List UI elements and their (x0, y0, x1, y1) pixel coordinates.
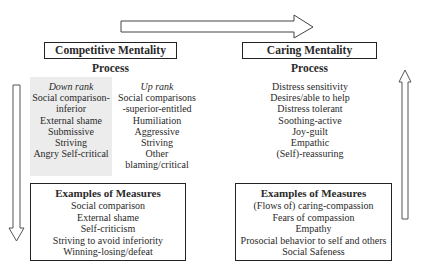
competitive-mentality-title: Competitive Mentality (44, 42, 177, 59)
down-arrow-icon (9, 85, 24, 241)
list-item: Joy-guilt (250, 126, 370, 137)
list-item: Social Safeness (236, 246, 391, 258)
list-item: Distress sensitivity (250, 81, 370, 92)
list-item: Fears of compassion (236, 212, 391, 224)
list-item: Soothing-active (250, 115, 370, 126)
list-item: Striving (112, 137, 202, 148)
list-item: External shame (31, 212, 185, 224)
up-rank-label: Up rank (112, 81, 202, 92)
competitive-process-heading: Process (44, 62, 177, 74)
competitive-measures-heading: Examples of Measures (31, 186, 185, 200)
list-item: Prosocial behavior to self and others (236, 235, 391, 247)
competitive-measures-box: Examples of Measures Social comparison E… (30, 183, 186, 261)
list-item: Social comparison- (30, 92, 112, 103)
caring-process-heading: Process (242, 62, 377, 74)
list-item: blaming/critical (112, 159, 202, 170)
list-item: Self-criticism (31, 223, 185, 235)
list-item: Aggressive (112, 126, 202, 137)
caring-mentality-title: Caring Mentality (242, 42, 377, 59)
list-item: Empathic (250, 137, 370, 148)
list-item: Submissive (30, 126, 112, 137)
caring-measures-heading: Examples of Measures (236, 186, 391, 200)
up-rank-list: Up rank Social comparisons -superior-ent… (112, 81, 202, 171)
list-item: inferior (30, 103, 112, 114)
list-item: Winning-losing/defeat (31, 246, 185, 258)
caring-process-list: Distress sensitivity Desires/able to hel… (250, 81, 370, 159)
list-item: Other (112, 148, 202, 159)
list-item: -superior-entitled (112, 103, 202, 114)
list-item: Angry Self-critical (30, 148, 112, 159)
list-item: Humiliation (112, 115, 202, 126)
list-item: Desires/able to help (250, 92, 370, 103)
down-rank-list: Down rank Social comparison- inferior Ex… (30, 81, 112, 159)
list-item: Empathy (236, 223, 391, 235)
list-item: Distress tolerant (250, 103, 370, 114)
right-arrow-icon (121, 15, 313, 38)
up-arrow-icon (399, 70, 411, 219)
list-item: (Self)-reassuring (250, 148, 370, 159)
list-item: Social comparisons (112, 92, 202, 103)
caring-title-text: Caring Mentality (267, 44, 352, 56)
list-item: External shame (30, 115, 112, 126)
caring-measures-box: Examples of Measures (Flows of) caring-c… (235, 183, 392, 261)
list-item: (Flows of) caring-compassion (236, 200, 391, 212)
competitive-title-text: Competitive Mentality (55, 44, 166, 56)
list-item: Striving to avoid inferiority (31, 235, 185, 247)
down-rank-label: Down rank (30, 81, 112, 92)
list-item: Social comparison (31, 200, 185, 212)
list-item: Striving (30, 137, 112, 148)
